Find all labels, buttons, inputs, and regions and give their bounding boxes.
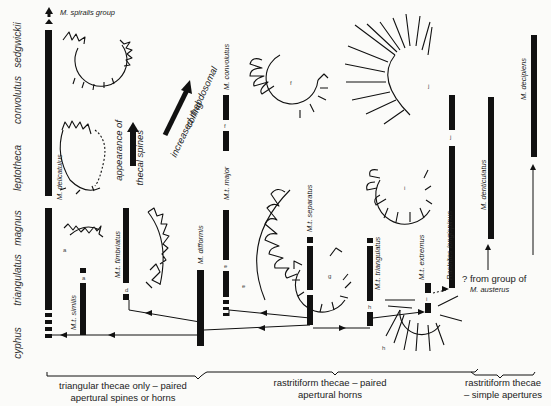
lineage-separatus: M.t. separatus g <box>292 184 351 325</box>
range-bar <box>307 246 313 290</box>
zone-cyphus: cyphus <box>12 327 23 359</box>
svg-text:h: h <box>368 304 371 310</box>
zone-triangulatus: triangulatus <box>12 254 23 306</box>
evolution-diagram: sedgwickii convolutus leptotheca magnus … <box>0 0 551 406</box>
svg-text:i: i <box>404 185 405 191</box>
lineage-similis: a M.t. similis a <box>63 224 103 335</box>
svg-text:a: a <box>63 247 67 253</box>
fossil-sedgwickii <box>63 32 132 90</box>
svg-text:f: f <box>290 80 292 86</box>
taxon-convolutus: M. convolutus <box>222 43 231 90</box>
lineage-longispinus: j Rastrites longispinus j <box>345 14 455 288</box>
range-bar <box>449 95 455 130</box>
group-3-line-2: – simple apertures <box>464 389 542 400</box>
range-bar <box>531 35 537 157</box>
taxon-separatus: M.t. separatus <box>305 184 314 232</box>
zone-labels: sedgwickii convolutus leptotheca magnus … <box>12 21 23 358</box>
annotation-thecal-spines: appearance of thecal spines <box>113 119 145 186</box>
arrow-up-icon <box>45 19 53 24</box>
svg-text:e: e <box>242 283 246 289</box>
svg-text:e: e <box>224 263 228 269</box>
taxon-difformis: M. difformis <box>196 225 205 264</box>
arrow-up-icon <box>181 80 192 94</box>
annotation-coiling: increased rhabdosomal coiling <box>165 64 220 159</box>
zone-magnus: magnus <box>12 210 23 246</box>
fossil-h: h <box>382 296 462 351</box>
taxon-similis: M.t. similis <box>69 295 78 330</box>
range-bar <box>123 208 129 283</box>
lineage-triangulatus: h M.t. triangulatus <box>367 236 382 326</box>
lineage-convolutus: f M. convolutus f <box>222 43 328 151</box>
range-bar <box>223 210 229 260</box>
lineage-major: e M.t. major e <box>222 166 297 316</box>
annotation-austerus-taxon: M. austerus <box>470 285 509 294</box>
range-bar <box>488 97 494 239</box>
taxon-longispinus: Rastrites longispinus <box>445 211 454 280</box>
arrow-up-icon <box>127 122 139 132</box>
taxon-major: M.t. major <box>222 166 231 200</box>
group-3-line-1: rastritiform thecae <box>465 377 541 388</box>
svg-text:h: h <box>382 345 385 351</box>
annotation-text: appearance of <box>113 119 124 181</box>
taxon-spiralis-group: M. spiralis group <box>60 8 115 17</box>
lineage-denticulatus: M. denticulatus ? from group of M. auste… <box>462 97 527 294</box>
fossil-delicatulus <box>60 121 105 194</box>
range-bar <box>45 208 52 310</box>
group-2-line-2: apertural horns <box>298 389 362 400</box>
svg-text:g: g <box>328 273 331 279</box>
range-bar <box>45 30 52 196</box>
taxon-denticulatus: M. denticulatus <box>479 159 488 210</box>
range-bar <box>223 131 229 151</box>
zone-sedgwickii: sedgwickii <box>12 21 23 67</box>
taxon-fimbriatus: M.t. fimbriatus <box>113 231 122 278</box>
svg-text:a: a <box>82 275 86 281</box>
taxon-delicatulus: M. delicatulus <box>55 154 64 200</box>
range-bar <box>223 95 229 120</box>
lineage-decipiens: M. decipiens <box>519 35 537 255</box>
svg-text:j: j <box>449 134 451 140</box>
annotation-austerus: ? from group of <box>462 273 527 284</box>
taxon-triangulatus: M.t. triangulatus <box>373 236 382 290</box>
arrow-up-icon <box>45 7 53 14</box>
lineage-difformis: M. difformis <box>196 225 205 346</box>
zone-leptotheca: leptotheca <box>12 144 23 191</box>
taxon-decipiens: M. decipiens <box>519 58 528 100</box>
range-bar <box>80 283 86 335</box>
group-braces: triangular thecae only – paired apertura… <box>47 369 542 403</box>
taxon-extremus: M.t. extremus <box>417 234 426 280</box>
group-2-line-1: rastritiform thecae – paired <box>274 377 387 388</box>
svg-text:i: i <box>426 296 427 302</box>
svg-text:j: j <box>427 83 429 89</box>
svg-text:d: d <box>125 287 128 293</box>
zone-convolutus: convolutus <box>12 76 23 124</box>
group-1-line-2: apertural spines or horns <box>70 392 175 403</box>
group-1-line-1: triangular thecae only – paired <box>59 380 187 391</box>
lineage-fimbriatus: d M.t. fimbriatus <box>113 208 169 300</box>
arrow-up-icon <box>485 244 491 250</box>
arrow-up-icon <box>530 164 536 170</box>
svg-text:f: f <box>224 123 226 129</box>
